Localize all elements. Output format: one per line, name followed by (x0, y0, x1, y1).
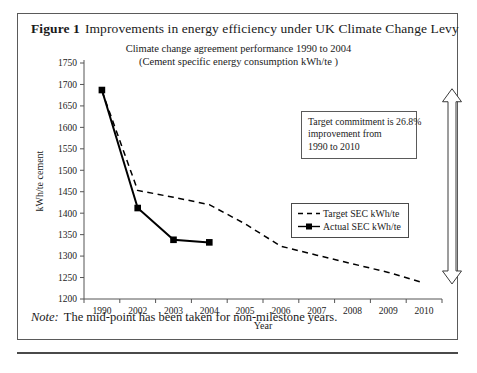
series-marker (170, 236, 177, 243)
figure-root: Figure 1Improvements in energy efficienc… (0, 0, 477, 373)
figure-note: Note:The mid-point has been taken for no… (31, 310, 337, 325)
y-axis-title: kWh/te cement (34, 150, 45, 211)
y-tick-label: 1200 (58, 294, 77, 304)
legend-label-target: Target SEC kWh/te (323, 207, 399, 220)
series-line-1 (102, 90, 209, 242)
x-tick-label: 2009 (379, 306, 398, 316)
series-marker (134, 205, 141, 212)
bottom-rule (17, 352, 458, 354)
series-marker (206, 239, 213, 246)
target-commitment-annotation: Target commitment is 26.8% improvement f… (301, 111, 417, 159)
plot-svg: 1200125013001350140014501500155016001650… (18, 14, 459, 314)
y-tick-label: 1250 (58, 273, 77, 283)
chart-area: Climate change agreement performance 199… (18, 14, 459, 314)
y-tick-label: 1400 (58, 209, 77, 219)
chart-legend: Target SEC kWh/te Actual SEC kWh/te (291, 203, 409, 238)
y-tick-label: 1300 (58, 251, 77, 261)
legend-item-actual: Actual SEC kWh/te (297, 220, 403, 233)
y-tick-label: 1650 (58, 101, 77, 111)
y-tick-label: 1600 (58, 123, 77, 133)
x-tick-label: 2008 (343, 306, 362, 316)
series-marker (99, 87, 106, 94)
y-tick-label: 1750 (58, 58, 77, 68)
legend-swatch-dashed (297, 208, 321, 219)
legend-label-actual: Actual SEC kWh/te (323, 220, 401, 233)
double-headed-vertical-arrow (443, 89, 462, 284)
legend-swatch-solid-square (297, 221, 321, 232)
y-tick-label: 1500 (58, 166, 77, 176)
y-tick-label: 1550 (58, 144, 77, 154)
annotation-line-1: Target commitment is 26.8% (308, 116, 411, 128)
y-tick-label: 1350 (58, 230, 77, 240)
note-text: The mid-point has been taken for non-mil… (64, 310, 338, 324)
x-tick-label: 2010 (415, 306, 434, 316)
y-tick-label: 1700 (58, 80, 77, 90)
y-tick-label: 1450 (58, 187, 77, 197)
legend-item-target: Target SEC kWh/te (297, 207, 403, 220)
note-label: Note: (31, 310, 59, 324)
figure-frame: Figure 1Improvements in energy efficienc… (17, 13, 458, 340)
annotation-line-3: 1990 to 2010 (308, 141, 411, 153)
annotation-line-2: improvement from (308, 128, 411, 140)
